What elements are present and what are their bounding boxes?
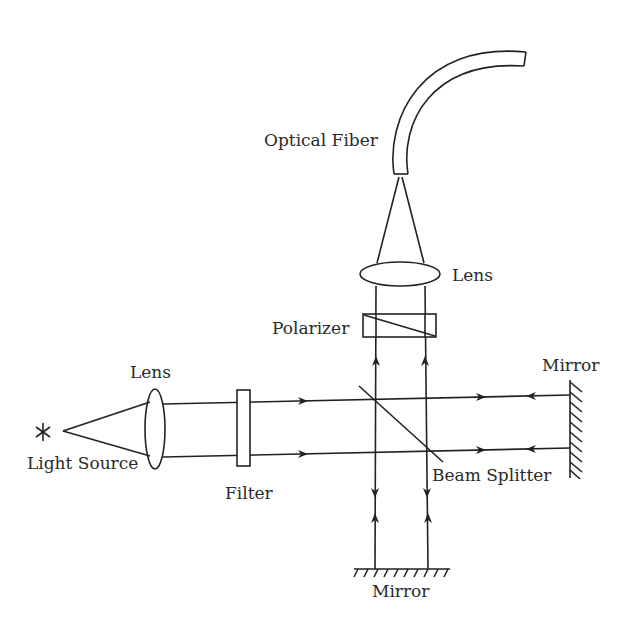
- polarizer-label: Polarizer: [272, 320, 349, 337]
- fiber-cone: [377, 177, 424, 263]
- mirror-bottom-label: Mirror: [372, 583, 429, 600]
- light-source-label: Light Source: [27, 455, 138, 472]
- mirror-right-icon: [570, 380, 582, 479]
- optical-fiber-icon: [393, 51, 526, 174]
- source-cone: [63, 402, 150, 456]
- lens-left-icon: [145, 389, 165, 469]
- lens-top-label: Lens: [452, 267, 493, 284]
- mirror-bottom-icon: [354, 569, 450, 577]
- optical-diagram: Optical Fiber Lens Polarizer Mirror Lens…: [0, 0, 633, 633]
- optical-fiber-label: Optical Fiber: [264, 132, 378, 149]
- light-source-icon: [36, 423, 50, 441]
- lens-top-icon: [360, 262, 440, 286]
- horizontal-beams: [163, 395, 570, 457]
- lens-left-label: Lens: [130, 364, 171, 381]
- beam-splitter-label: Beam Splitter: [432, 467, 551, 484]
- filter-label: Filter: [225, 485, 273, 502]
- filter-icon: [237, 390, 250, 466]
- polarizer-icon: [363, 314, 436, 337]
- mirror-right-label: Mirror: [542, 357, 599, 374]
- diagram-canvas: [0, 0, 633, 633]
